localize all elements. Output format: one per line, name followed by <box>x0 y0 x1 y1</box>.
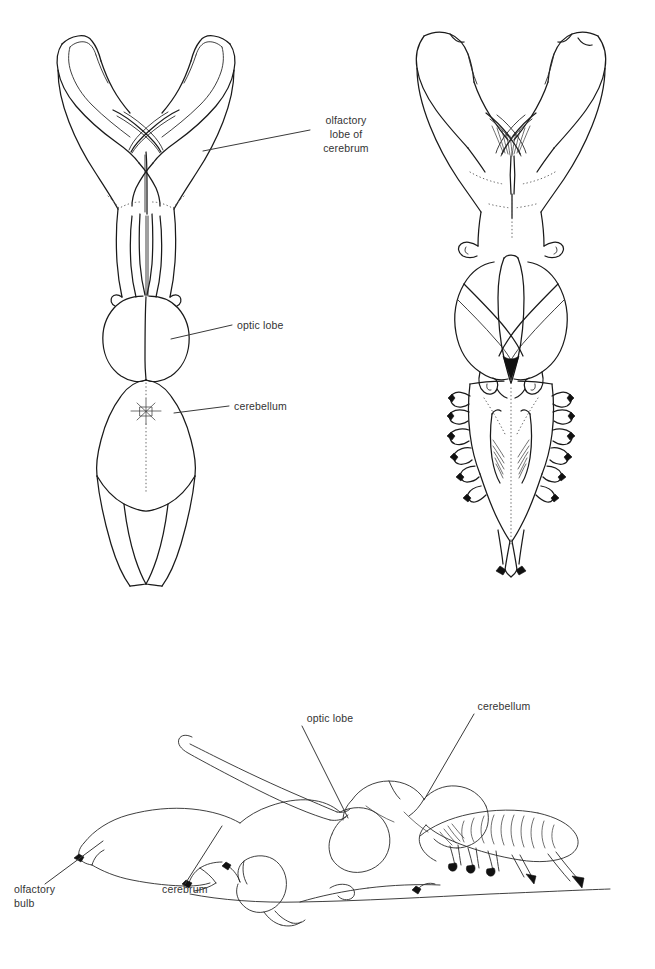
cranial-nerve-roots-right <box>536 392 575 502</box>
label-cerebellum-lateral: cerebellum <box>478 700 531 712</box>
labels-group: olfactory lobe of cerebrum optic lobe ce… <box>14 114 531 909</box>
label-olfactory-lobe-line1: olfactory <box>325 114 367 126</box>
label-olfactory-bulb-line1: olfactory <box>14 883 56 895</box>
medulla-fibre-tufts <box>440 824 464 845</box>
cranial-nerve-roots-left <box>447 392 486 502</box>
dorsal-leader-lines <box>171 130 310 413</box>
label-olfactory-bulb: olfactory bulb <box>14 883 56 909</box>
label-olfactory-lobe-line2: lobe of <box>330 128 363 140</box>
leader-olfactory-bulb <box>45 841 103 884</box>
medulla-hatching-left <box>493 440 504 478</box>
cerebellum-star-mark <box>131 399 161 424</box>
anatomy-figure: olfactory lobe of cerebrum optic lobe ce… <box>0 0 655 969</box>
leader-cerebellum-dorsal <box>174 406 229 413</box>
medulla-ridges <box>462 815 555 848</box>
label-optic-lobe-lateral: optic lobe <box>307 712 353 724</box>
leader-cerebellum-lateral <box>424 714 474 800</box>
lateral-view-drawing <box>74 735 610 926</box>
ventral-view-drawing <box>416 32 605 577</box>
medulla-hatching-right <box>518 440 529 478</box>
label-olfactory-lobe-of-cerebrum: olfactory lobe of cerebrum <box>323 114 369 154</box>
label-olfactory-lobe-line3: cerebrum <box>323 142 369 154</box>
lateral-leader-lines <box>45 714 474 884</box>
label-optic-lobe-dorsal: optic lobe <box>237 319 283 331</box>
lateral-nerve-roots <box>448 845 584 888</box>
label-cerebellum-dorsal: cerebellum <box>234 400 287 412</box>
leader-optic-lobe <box>171 325 232 339</box>
dorsal-view-drawing <box>57 36 235 586</box>
leader-optic-lobe-lateral <box>302 726 348 818</box>
leader-olfactory-lobe-left <box>203 130 310 151</box>
leader-cerebrum-lateral <box>185 826 222 884</box>
label-olfactory-bulb-line2: bulb <box>14 897 34 909</box>
label-cerebrum-lateral: cerebrum <box>162 883 208 895</box>
